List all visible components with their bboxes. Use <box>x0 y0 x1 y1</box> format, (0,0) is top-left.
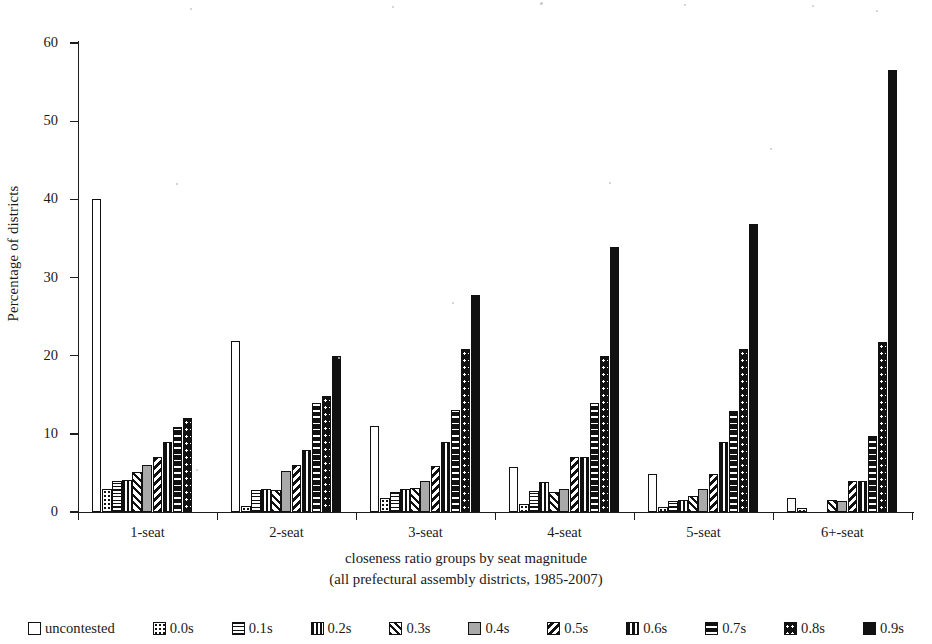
scan-artifact <box>876 10 878 12</box>
x-axis-label-main: closeness ratio groups by seat magnitude <box>0 548 932 569</box>
bar-3-seat-0.9s <box>471 295 481 512</box>
y-tick-label: 10 <box>22 426 58 441</box>
bar-1-seat-0.4s <box>142 465 152 512</box>
legend-swatch-icon <box>153 622 166 635</box>
y-tick-label: 40 <box>22 191 58 206</box>
legend-item-06s[interactable]: 0.6s <box>626 621 667 636</box>
x-tick-mark <box>634 512 635 520</box>
scan-artifact <box>812 5 814 7</box>
x-tick-mark <box>356 512 357 520</box>
y-tick-label: 30 <box>22 270 58 285</box>
bar-2-seat-0.5s <box>292 465 302 512</box>
bar-3-seat-0.5s <box>431 466 441 512</box>
bar-4-seat-uncontested <box>509 467 519 512</box>
bar-3-seat-0.6s <box>441 442 451 512</box>
legend-swatch-icon <box>28 622 41 635</box>
scan-artifact <box>770 148 772 150</box>
bar-1-seat-0.2s <box>122 480 132 512</box>
bar-2-seat-0.6s <box>302 450 312 512</box>
legend-swatch-icon <box>626 622 639 635</box>
bar-1-seat-0.7s <box>173 427 183 512</box>
legend-item-04s[interactable]: 0.4s <box>468 621 509 636</box>
bar-2-seat-0.7s <box>312 403 322 512</box>
bar-3-seat-0.8s <box>461 349 471 512</box>
y-tick-mark <box>70 199 78 200</box>
chart-figure: Percentage of districts 0102030405060 1-… <box>0 0 932 644</box>
x-axis-label: closeness ratio groups by seat magnitude… <box>0 548 932 590</box>
x-category-label-2-seat: 2-seat <box>217 524 356 541</box>
x-category-label-4-seat: 4-seat <box>495 524 634 541</box>
scan-artifact <box>392 6 394 8</box>
bar-5-seat-0.5s <box>709 474 719 512</box>
bar-5-seat-0.0s <box>658 507 668 512</box>
y-tick-label: 0 <box>22 504 58 519</box>
bar-2-seat-0.1s <box>251 490 261 512</box>
bar-group <box>217 43 356 512</box>
bar-5-seat-0.4s <box>698 489 708 512</box>
y-tick-label: 20 <box>22 348 58 363</box>
bar-4-seat-0.6s <box>580 457 590 512</box>
y-tick-label: 60 <box>22 35 58 50</box>
plot-area <box>78 43 912 512</box>
legend-label: 0.7s <box>722 621 746 636</box>
bar-4-seat-0.7s <box>590 403 600 512</box>
x-tick-mark <box>217 512 218 520</box>
bar-6plus-seat-0.4s <box>837 501 847 512</box>
bar-6plus-seat-0.6s <box>858 481 868 512</box>
bar-1-seat-0.6s <box>163 442 173 512</box>
x-category-label-1-seat: 1-seat <box>78 524 217 541</box>
bar-5-seat-0.7s <box>729 411 739 512</box>
bar-group <box>356 43 495 512</box>
bar-3-seat-0.4s <box>420 481 430 512</box>
legend-swatch-icon <box>547 622 560 635</box>
bar-6plus-seat-0.3s <box>827 500 837 513</box>
y-tick-mark <box>70 355 78 356</box>
bar-2-seat-0.0s <box>241 506 251 512</box>
scan-artifact <box>684 4 686 6</box>
legend-item-03s[interactable]: 0.3s <box>389 621 430 636</box>
x-category-label-6plus-seat: 6+-seat <box>773 524 912 541</box>
legend-item-08s[interactable]: 0.8s <box>784 621 825 636</box>
bar-3-seat-uncontested <box>370 426 380 512</box>
bar-5-seat-0.1s <box>668 501 678 512</box>
x-tick-mark <box>495 512 496 520</box>
legend-swatch-icon <box>232 622 245 635</box>
bar-3-seat-0.0s <box>380 498 390 512</box>
bar-1-seat-0.3s <box>132 472 142 512</box>
bar-group <box>773 43 912 512</box>
legend-label: 0.8s <box>801 621 825 636</box>
x-tick-mark <box>78 512 79 520</box>
legend-label: uncontested <box>45 621 115 636</box>
bar-3-seat-0.2s <box>400 489 410 512</box>
legend-item-07s[interactable]: 0.7s <box>705 621 746 636</box>
x-tick-mark <box>773 512 774 520</box>
bar-group <box>78 43 217 512</box>
bar-3-seat-0.7s <box>451 410 461 512</box>
legend-label: 0.4s <box>485 621 509 636</box>
bar-6plus-seat-0.9s <box>888 70 898 512</box>
bar-5-seat-0.2s <box>678 500 688 512</box>
x-category-label-3-seat: 3-seat <box>356 524 495 541</box>
bar-5-seat-0.8s <box>739 349 749 512</box>
bar-6plus-seat-0.8s <box>878 342 888 512</box>
legend-item-01s[interactable]: 0.1s <box>232 621 273 636</box>
bar-3-seat-0.3s <box>410 488 420 512</box>
legend-item-09s[interactable]: 0.9s <box>863 621 904 636</box>
legend-item-02s[interactable]: 0.2s <box>311 621 352 636</box>
legend-label: 0.3s <box>406 621 430 636</box>
bar-1-seat-0.8s <box>183 418 193 512</box>
bar-4-seat-0.0s <box>519 504 529 512</box>
bar-4-seat-0.3s <box>549 492 559 512</box>
legend-item-uncontested[interactable]: uncontested <box>28 621 115 636</box>
bar-5-seat-0.3s <box>688 496 698 512</box>
legend-item-00s[interactable]: 0.0s <box>153 621 194 636</box>
bar-1-seat-uncontested <box>92 199 102 512</box>
legend-item-05s[interactable]: 0.5s <box>547 621 588 636</box>
bar-group <box>634 43 773 512</box>
legend-swatch-icon <box>784 622 797 635</box>
bar-3-seat-0.1s <box>390 492 400 512</box>
y-tick-label: 50 <box>22 113 58 128</box>
x-category-label-5-seat: 5-seat <box>634 524 773 541</box>
bar-6plus-seat-uncontested <box>787 498 797 512</box>
bar-6plus-seat-0.0s <box>797 508 807 512</box>
